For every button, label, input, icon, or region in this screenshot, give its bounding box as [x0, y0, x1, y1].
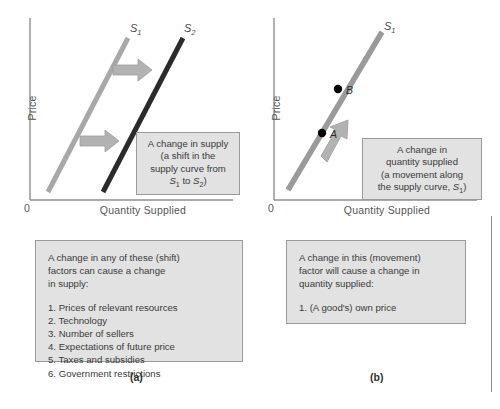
shift-intro-line2: factors can cause a change: [48, 264, 230, 277]
callout-a-line4: S1 to S2): [141, 175, 235, 191]
callout-a-line3: supply curve from: [141, 163, 235, 175]
list-item: 4. Expectations of future price: [48, 340, 230, 353]
point-label-a: A: [330, 128, 337, 140]
panel-change-in-supply: Price Quantity Supplied 0 S1 S2 A change…: [18, 10, 240, 210]
shift-factors-box: A change in any of these (shift) factors…: [35, 240, 243, 362]
panel-change-in-quantity-supplied: Price Quantity Supplied 0 S1 A B A chang…: [262, 10, 484, 210]
movement-factor-list: 1. (A good's) own price: [299, 301, 453, 314]
panel-b-x-axis-label: Quantity Supplied: [292, 204, 482, 216]
callout-b-line2: quantity supplied: [367, 156, 477, 168]
panel-b-origin-label: 0: [268, 202, 274, 214]
page-edge-rule: [491, 216, 492, 392]
panel-a-origin-label: 0: [24, 202, 30, 214]
shift-factors-list: 1. Prices of relevant resources 2. Techn…: [48, 301, 230, 380]
caption-b: (b): [370, 371, 383, 383]
caption-a: (a): [130, 371, 143, 383]
supply-curve-figure: Price Quantity Supplied 0 S1 S2 A change…: [0, 0, 500, 409]
callout-b-line3: (a movement along: [367, 169, 477, 181]
panel-a-x-axis-label: Quantity Supplied: [48, 204, 238, 216]
curve-label-s2: S2: [184, 22, 196, 37]
list-item: 3. Number of sellers: [48, 327, 230, 340]
point-b-marker: [334, 85, 342, 93]
curve-label-s1: S1: [130, 22, 142, 37]
shift-factors-intro: A change in any of these (shift) factors…: [48, 251, 230, 291]
list-item: 5. Taxes and subsidies: [48, 353, 230, 366]
movement-factor-intro: A change in this (movement) factor will …: [299, 251, 453, 291]
point-a-marker: [318, 129, 326, 137]
shift-arrow-upper-icon: [113, 59, 152, 81]
point-label-b: B: [346, 84, 353, 96]
movement-intro-line2: factor will cause a change in: [299, 264, 453, 277]
callout-a-line1: A change in supply: [141, 138, 235, 150]
panel-b-callout-box: A change in quantity supplied (a movemen…: [362, 138, 482, 200]
shift-intro-line3: in supply:: [48, 277, 230, 290]
callout-b-line1: A change in: [367, 144, 477, 156]
list-item: 1. Prices of relevant resources: [48, 301, 230, 314]
list-item: 2. Technology: [48, 314, 230, 327]
panel-a-y-axis-label: Price: [26, 78, 38, 138]
shift-arrow-lower-icon: [80, 130, 119, 152]
callout-b-line4: the supply curve, S1): [367, 181, 477, 197]
list-item: 1. (A good's) own price: [299, 301, 453, 314]
curve-label-s1: S1: [384, 20, 396, 35]
panel-a-callout-box: A change in supply (a shift in the suppl…: [136, 132, 240, 195]
movement-intro-line3: quantity supplied:: [299, 277, 453, 290]
callout-a-line2: (a shift in the: [141, 150, 235, 162]
movement-intro-line1: A change in this (movement): [299, 251, 453, 264]
panel-b-y-axis-label: Price: [270, 78, 282, 138]
movement-factor-box: A change in this (movement) factor will …: [286, 240, 466, 324]
shift-intro-line1: A change in any of these (shift): [48, 251, 230, 264]
